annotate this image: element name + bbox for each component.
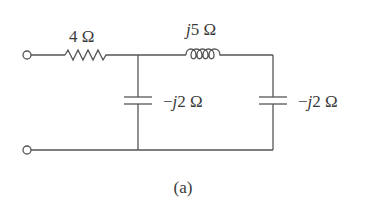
- capacitor2-neg-j2ohm: [259, 97, 287, 104]
- top-terminal: [23, 51, 31, 59]
- circuit-diagram: 4 Ω j5 Ω −j2 Ω −j2 Ω (a): [0, 0, 365, 205]
- capacitor2-label: −j2 Ω: [298, 92, 338, 111]
- capacitor1-label: −j2 Ω: [163, 92, 203, 111]
- resistor-4ohm: [65, 50, 110, 60]
- bottom-terminal: [23, 146, 31, 154]
- inductor-label: j5 Ω: [184, 20, 216, 39]
- resistor-label: 4 Ω: [69, 27, 94, 46]
- capacitor1-neg-j2ohm: [124, 97, 152, 104]
- inductor-j5ohm: [186, 49, 228, 59]
- figure-caption: (a): [174, 178, 193, 197]
